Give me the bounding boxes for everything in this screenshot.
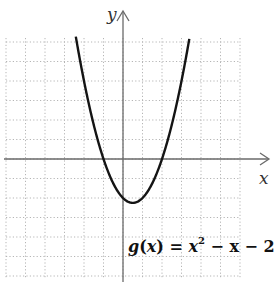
x-axis-label: x: [259, 168, 269, 188]
function-name: g: [128, 237, 139, 256]
y-axis-label: y: [106, 4, 117, 24]
function-label: g(x) = x2 − x − 2: [128, 237, 275, 256]
function-exponent: 2: [198, 235, 205, 246]
function-term: x: [188, 237, 198, 256]
function-var: x: [147, 237, 157, 256]
function-rest: − x − 2: [205, 237, 275, 256]
